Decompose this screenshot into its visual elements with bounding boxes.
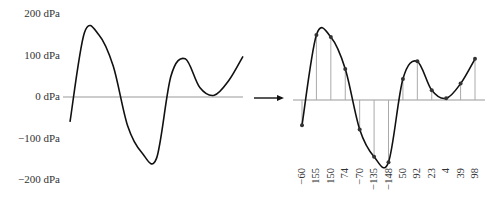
sample-point	[343, 67, 347, 71]
sample-point	[430, 88, 434, 92]
sample-value-label: 74	[339, 168, 350, 198]
sample-point	[473, 57, 477, 61]
sample-value-label: 23	[426, 168, 437, 198]
sample-value-label: −148	[383, 168, 394, 198]
y-tick-label: −100 dPa	[0, 132, 60, 144]
sample-point	[372, 155, 376, 159]
sample-value-label: −70	[354, 168, 365, 198]
y-tick-label: −200 dPa	[0, 173, 60, 185]
sample-value-label: 4	[440, 168, 451, 198]
sample-point	[358, 127, 362, 131]
sample-point	[387, 160, 391, 164]
sample-point	[300, 123, 304, 127]
sample-point	[329, 35, 333, 39]
sample-value-label: −60	[296, 168, 307, 198]
sample-point	[401, 77, 405, 81]
sampling-figure: 200 dPa100 dPa0 dPa−100 dPa−200 dPa −601…	[0, 0, 490, 199]
sample-value-label: 50	[397, 168, 408, 198]
sample-point	[415, 59, 419, 63]
sample-point	[314, 33, 318, 37]
sample-point	[444, 96, 448, 100]
sample-point	[459, 82, 463, 86]
sample-value-label: 155	[310, 168, 321, 198]
sample-value-label: 39	[455, 168, 466, 198]
arrow-right-icon	[254, 95, 284, 101]
y-tick-label: 200 dPa	[0, 7, 60, 19]
y-tick-label: 0 dPa	[0, 90, 60, 102]
sample-value-label: 92	[411, 168, 422, 198]
y-tick-label: 100 dPa	[0, 49, 60, 61]
sample-value-label: 98	[469, 168, 480, 198]
sample-stems	[302, 35, 475, 162]
sample-value-label: 150	[325, 168, 336, 198]
sample-value-label: −135	[368, 168, 379, 198]
left-analog-waveform	[70, 25, 243, 163]
